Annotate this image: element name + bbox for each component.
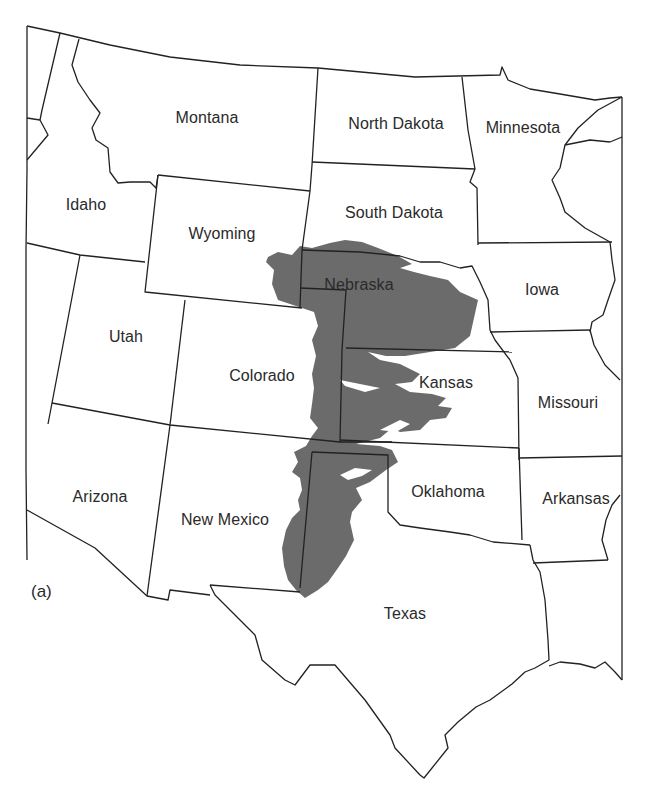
- state-label-idaho: Idaho: [66, 196, 107, 214]
- state-label-north-dakota: North Dakota: [348, 115, 443, 133]
- state-label-minnesota: Minnesota: [486, 119, 561, 137]
- state-label-montana: Montana: [176, 109, 239, 127]
- state-label-oklahoma: Oklahoma: [411, 483, 485, 501]
- state-label-wyoming: Wyoming: [188, 225, 255, 243]
- panel-label: (a): [31, 582, 52, 602]
- state-label-colorado: Colorado: [229, 367, 295, 385]
- state-label-kansas: Kansas: [419, 374, 473, 392]
- state-label-south-dakota: South Dakota: [345, 204, 443, 222]
- state-label-texas: Texas: [384, 605, 426, 623]
- state-label-iowa: Iowa: [525, 281, 559, 299]
- state-label-nebraska: Nebraska: [324, 276, 393, 294]
- map: Montana North Dakota Minnesota Idaho Wyo…: [0, 0, 647, 806]
- state-label-new-mexico: New Mexico: [181, 511, 269, 529]
- state-label-utah: Utah: [109, 328, 143, 346]
- state-label-arizona: Arizona: [73, 488, 128, 506]
- state-label-arkansas: Arkansas: [542, 490, 610, 508]
- state-label-missouri: Missouri: [538, 394, 598, 412]
